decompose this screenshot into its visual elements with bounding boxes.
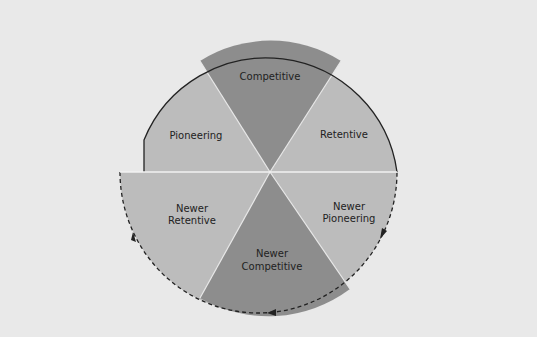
label-newer-competitive-line2: Competitive — [242, 261, 303, 272]
label-newer-pioneering-line2: Pioneering — [323, 213, 376, 224]
label-newer-retentive-line2: Retentive — [168, 215, 216, 226]
label-newer-competitive-line1: Newer — [256, 248, 289, 259]
lower-half — [120, 172, 397, 316]
label-competitive: Competitive — [240, 71, 301, 82]
upper-half — [144, 41, 397, 172]
life-cycle-wheel-diagram: Competitive Pioneering Retentive Newer R… — [0, 0, 537, 337]
label-retentive: Retentive — [320, 129, 368, 140]
label-newer-pioneering-line1: Newer — [333, 201, 366, 212]
label-newer-retentive-line1: Newer — [176, 203, 209, 214]
label-pioneering: Pioneering — [170, 130, 223, 141]
